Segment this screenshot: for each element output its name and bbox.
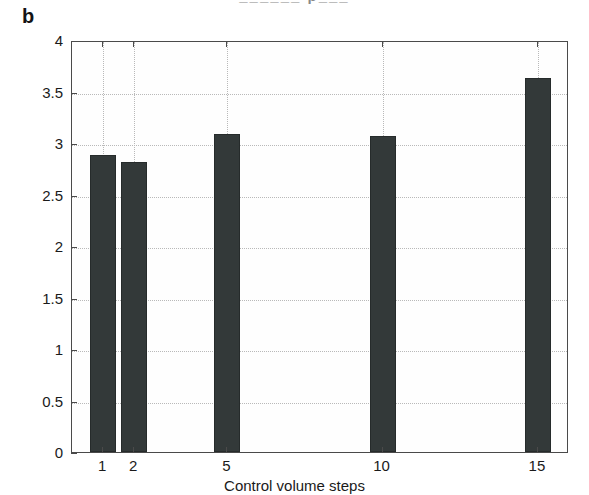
y-tick-label: 3 <box>55 136 63 151</box>
gridline-horizontal <box>72 145 567 146</box>
y-tick-label: 1 <box>55 342 63 357</box>
plot-area <box>71 41 568 453</box>
y-tick-label: 2 <box>55 239 63 254</box>
bar-2 <box>121 162 147 452</box>
y-tick-mark <box>71 144 77 145</box>
y-tick-mark <box>71 350 77 351</box>
x-tick-mark-top <box>102 41 103 47</box>
x-tick-mark-bottom <box>102 447 103 453</box>
x-tick-mark-top <box>537 41 538 47</box>
bar-1 <box>90 155 116 452</box>
y-tick-mark <box>71 93 77 94</box>
x-tick-label: 5 <box>186 458 266 473</box>
x-tick-label: 10 <box>342 458 422 473</box>
y-tick-label: 0.5 <box>42 394 63 409</box>
bar-5 <box>214 134 240 452</box>
bar-10 <box>370 136 396 452</box>
x-tick-mark-bottom <box>133 447 134 453</box>
gridline-horizontal <box>72 94 567 95</box>
x-tick-mark-bottom <box>226 447 227 453</box>
x-axis-title: Control volume steps <box>0 478 589 493</box>
panel-label-b: b <box>22 6 34 26</box>
x-tick-mark-bottom <box>382 447 383 453</box>
cut-off-caption-text: ______ p___ <box>0 0 589 10</box>
x-tick-mark-top <box>226 41 227 47</box>
y-tick-mark <box>71 196 77 197</box>
x-tick-mark-bottom <box>537 447 538 453</box>
y-tick-label: 1.5 <box>42 291 63 306</box>
bar-15 <box>525 78 551 452</box>
y-tick-label: 4 <box>55 33 63 48</box>
y-tick-label: 2.5 <box>42 188 63 203</box>
x-tick-mark-top <box>133 41 134 47</box>
x-tick-label: 2 <box>93 458 173 473</box>
y-tick-mark <box>71 402 77 403</box>
y-tick-mark <box>71 41 77 42</box>
y-tick-mark <box>71 247 77 248</box>
y-tick-mark <box>71 299 77 300</box>
y-tick-label: 3.5 <box>42 85 63 100</box>
y-tick-mark <box>71 453 77 454</box>
x-tick-mark-top <box>382 41 383 47</box>
x-tick-label: 15 <box>497 458 577 473</box>
